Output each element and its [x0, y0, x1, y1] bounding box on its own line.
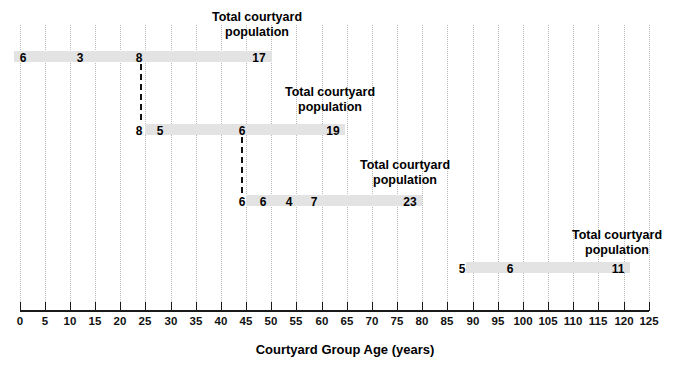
- total-caption-line2: population: [572, 243, 662, 258]
- tick-label-120: 120: [614, 315, 633, 327]
- gridline-50: [271, 25, 272, 310]
- total-caption-row1: Total courtyard population: [212, 10, 302, 40]
- tick-40: [221, 302, 222, 311]
- tick-110: [573, 302, 574, 311]
- segment-label-row1-2: 8: [136, 52, 143, 64]
- segment-label-row1-0: 6: [20, 52, 27, 64]
- tick-label-65: 65: [341, 315, 354, 327]
- gridline-0: [20, 25, 21, 310]
- gridline-30: [171, 25, 172, 310]
- tick-label-45: 45: [240, 315, 253, 327]
- tick-0: [20, 302, 21, 311]
- segment-label-row3-3: 7: [311, 196, 318, 208]
- segment-label-row2-0: 8: [136, 125, 143, 137]
- gridline-55: [296, 25, 297, 310]
- tick-75: [397, 302, 398, 311]
- tick-label-50: 50: [265, 315, 278, 327]
- tick-5: [45, 302, 46, 311]
- bar-row4: [466, 262, 630, 273]
- total-caption-line2: population: [285, 100, 375, 115]
- total-caption-line1: Total courtyard: [212, 10, 302, 25]
- gridline-20: [120, 25, 121, 310]
- tick-label-55: 55: [290, 315, 303, 327]
- tick-25: [145, 302, 146, 311]
- tick-label-105: 105: [538, 315, 557, 327]
- tick-30: [171, 302, 172, 311]
- tick-105: [548, 302, 549, 311]
- tick-label-115: 115: [589, 315, 608, 327]
- total-caption-line1: Total courtyard: [572, 228, 662, 243]
- total-caption-line1: Total courtyard: [360, 158, 450, 173]
- segment-label-row4-1: 6: [507, 263, 514, 275]
- connector-row1-row2: [140, 64, 142, 120]
- bar-row3: [246, 195, 422, 206]
- tick-label-20: 20: [114, 315, 127, 327]
- segment-label-row2-1: 5: [157, 125, 164, 137]
- total-value-row3: 23: [403, 196, 416, 208]
- tick-50: [271, 302, 272, 311]
- tick-label-35: 35: [190, 315, 203, 327]
- gridline-35: [196, 25, 197, 310]
- tick-label-70: 70: [366, 315, 379, 327]
- tick-label-25: 25: [139, 315, 152, 327]
- tick-label-60: 60: [316, 315, 329, 327]
- gridline-10: [70, 25, 71, 310]
- gridline-15: [95, 25, 96, 310]
- tick-label-90: 90: [467, 315, 480, 327]
- gridline-40: [221, 25, 222, 310]
- tick-label-30: 30: [165, 315, 178, 327]
- total-value-row1: 17: [252, 52, 265, 64]
- bar-row1: [14, 51, 272, 62]
- total-caption-row2: Total courtyard population: [285, 85, 375, 115]
- tick-90: [473, 302, 474, 311]
- tick-label-110: 110: [564, 315, 583, 327]
- tick-115: [598, 302, 599, 311]
- total-caption-line2: population: [212, 25, 302, 40]
- total-value-row2: 19: [326, 125, 339, 137]
- segment-label-row3-1: 6: [260, 196, 267, 208]
- segment-label-row3-2: 4: [286, 196, 293, 208]
- tick-label-85: 85: [441, 315, 454, 327]
- total-caption-row3: Total courtyard population: [360, 158, 450, 188]
- gridline-65: [347, 25, 348, 310]
- tick-label-15: 15: [89, 315, 102, 327]
- tick-label-125: 125: [639, 315, 658, 327]
- tick-55: [296, 302, 297, 311]
- gridline-5: [45, 25, 46, 310]
- segment-label-row3-0: 6: [239, 196, 246, 208]
- tick-45: [246, 302, 247, 311]
- courtyard-age-chart: Total courtyard population 6 3 8 17 Tota…: [0, 0, 700, 378]
- tick-15: [95, 302, 96, 311]
- gridline-45: [246, 25, 247, 310]
- tick-70: [372, 302, 373, 311]
- connector-row2-row3: [241, 137, 243, 193]
- tick-65: [347, 302, 348, 311]
- tick-35: [196, 302, 197, 311]
- tick-label-100: 100: [513, 315, 532, 327]
- segment-label-row2-2: 6: [239, 125, 246, 137]
- tick-95: [498, 302, 499, 311]
- tick-label-40: 40: [215, 315, 228, 327]
- tick-120: [624, 302, 625, 311]
- tick-80: [422, 302, 423, 311]
- tick-label-5: 5: [42, 315, 48, 327]
- x-axis-title: Courtyard Group Age (years): [256, 342, 435, 357]
- tick-20: [120, 302, 121, 311]
- total-value-row4: 11: [612, 263, 625, 275]
- tick-125: [649, 302, 650, 311]
- segment-label-row1-1: 3: [77, 52, 84, 64]
- tick-60: [322, 302, 323, 311]
- tick-label-95: 95: [492, 315, 505, 327]
- segment-label-row4-0: 5: [459, 263, 466, 275]
- total-caption-line1: Total courtyard: [285, 85, 375, 100]
- tick-100: [523, 302, 524, 311]
- tick-label-0: 0: [17, 315, 23, 327]
- gridline-125: [649, 25, 650, 310]
- total-caption-line2: population: [360, 173, 450, 188]
- total-caption-row4: Total courtyard population: [572, 228, 662, 258]
- tick-label-75: 75: [391, 315, 404, 327]
- gridline-25: [145, 25, 146, 310]
- x-axis-line: [20, 310, 649, 312]
- tick-10: [70, 302, 71, 311]
- gridline-60: [322, 25, 323, 310]
